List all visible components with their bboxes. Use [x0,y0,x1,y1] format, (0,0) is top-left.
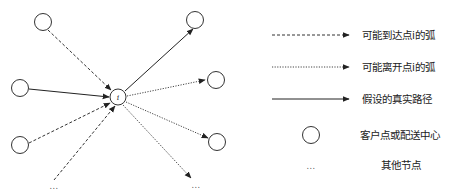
arc-i-to-top-right [125,29,193,91]
node-bottom-left [12,137,29,154]
arc-top-left-to-i [48,30,111,90]
legend-item-other-nodes: ... 其他节点 [306,159,421,171]
nodes: i ... ... [12,12,226,192]
legend-label-departure-arc: 可能离开点i的弧 [362,61,436,73]
arc-middle-left-to-i [29,89,109,97]
node-top-right [187,12,204,29]
other-nodes-left-marker: ... [49,182,58,191]
legend-label-arrival-arc: 可能到达点i的弧 [362,29,436,41]
legend-ellipsis-icon: ... [306,162,315,171]
network-diagram: i ... ... 可能到达点i的弧 可能离开点i的弧 假设的真实路径 客户点或… [0,0,449,196]
legend-circle-icon [303,127,320,144]
legend-label-other-nodes: 其他节点 [381,159,421,171]
legend-item-real-path: 假设的真实路径 [272,93,433,105]
arc-others-left-to-i [54,106,115,180]
legend-item-departure-arc: 可能离开点i的弧 [272,61,436,73]
legend: 可能到达点i的弧 可能离开点i的弧 假设的真实路径 客户点或配送中心 ... 其… [272,29,441,171]
node-lower-right [209,134,226,151]
node-middle-left [12,80,29,97]
legend-item-arrival-arc: 可能到达点i的弧 [272,29,436,41]
other-nodes-right-marker: ... [191,181,200,190]
arc-i-to-middle-right [127,80,205,96]
node-center-label: i [117,93,120,102]
node-top-left [35,14,52,31]
arc-bottom-left-to-i [29,103,110,143]
legend-label-real-path: 假设的真实路径 [362,93,433,105]
arc-i-to-lower-right [126,102,208,138]
legend-label-node: 客户点或配送中心 [360,129,441,141]
node-middle-right [208,72,225,89]
legend-item-node: 客户点或配送中心 [303,127,442,144]
